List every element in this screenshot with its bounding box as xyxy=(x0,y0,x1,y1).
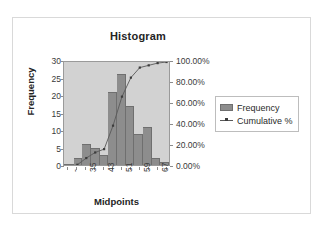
cumulative-point-marker xyxy=(85,157,87,159)
x-axis-tick-mark xyxy=(157,167,158,170)
y-axis-tick-label: 10 xyxy=(35,127,61,135)
cumulative-point-marker xyxy=(103,148,105,150)
x-axis: -3543515967 xyxy=(63,167,170,197)
y2-axis-tick-label: 40.00% xyxy=(176,120,205,128)
cumulative-point-marker xyxy=(94,151,96,153)
y2-axis-tick-label: 20.00% xyxy=(176,141,205,149)
y2-axis-tick-label: 80.00% xyxy=(176,78,205,86)
cumulative-point-marker xyxy=(130,77,132,79)
cumulative-point-marker xyxy=(112,125,114,127)
y2-axis-tick-mark xyxy=(170,124,173,125)
bar-swatch-icon xyxy=(220,104,233,111)
y2-axis-tick-label: 0.00% xyxy=(176,162,200,170)
x-axis-tick-mark xyxy=(85,167,86,170)
y-axis-tick-label: 0 xyxy=(35,162,61,170)
x-axis-tick-label: - xyxy=(71,169,79,172)
y2-axis-tick-label: 100.00% xyxy=(176,57,210,65)
y-axis-tick-label: 15 xyxy=(35,110,61,118)
cumulative-point-marker xyxy=(165,62,167,63)
y-axis-tick-label: 25 xyxy=(35,75,61,83)
x-axis-tick-mark xyxy=(103,167,104,170)
cumulative-point-marker xyxy=(139,66,141,68)
x-axis-tick-label: 67 xyxy=(161,163,169,172)
x-axis-tick-label: 35 xyxy=(89,163,97,172)
x-axis-tick-mark xyxy=(67,167,68,170)
cumulative-point-marker xyxy=(121,96,123,98)
x-axis-tick-label: 43 xyxy=(107,163,115,172)
y-axis-tick-label: 30 xyxy=(35,57,61,65)
x-axis-tick-mark xyxy=(121,167,122,170)
line-marker-icon xyxy=(220,117,233,124)
x-axis-tick-label: 59 xyxy=(143,163,151,172)
cumulative-point-marker xyxy=(148,64,150,66)
y2-axis-tick-mark xyxy=(170,61,173,62)
legend-item-frequency: Frequency xyxy=(220,101,293,114)
cumulative-point-marker xyxy=(76,164,78,166)
legend-item-label: Cumulative % xyxy=(237,116,293,126)
cumulative-line xyxy=(68,62,166,166)
y-axis-left: 051015202530 xyxy=(31,61,61,166)
chart-legend: Frequency Cumulative % xyxy=(215,96,299,132)
y2-axis-tick-mark xyxy=(170,166,173,167)
y2-axis-tick-mark xyxy=(170,82,173,83)
legend-item-label: Frequency xyxy=(237,103,280,113)
x-axis-title: Midpoints xyxy=(63,196,170,207)
cumulative-point-marker xyxy=(157,62,159,64)
y-axis-tick-label: 20 xyxy=(35,92,61,100)
y2-axis-tick-mark xyxy=(170,103,173,104)
y2-axis-tick-label: 60.00% xyxy=(176,99,205,107)
y-axis-tick-label: 5 xyxy=(35,145,61,153)
legend-item-cumulative: Cumulative % xyxy=(220,114,293,127)
cumulative-line-series xyxy=(64,62,170,166)
x-axis-tick-label: 51 xyxy=(125,163,133,172)
y2-axis-tick-mark xyxy=(170,145,173,146)
chart-title: Histogram xyxy=(43,30,233,42)
x-axis-tick-mark xyxy=(139,167,140,170)
plot-area xyxy=(63,61,170,166)
chart-frame: Histogram Frequency 051015202530 0.00%20… xyxy=(12,17,311,214)
